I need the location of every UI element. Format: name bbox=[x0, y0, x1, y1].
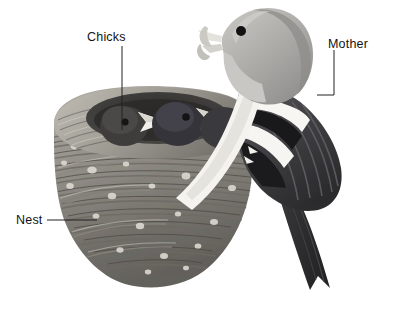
chick-middle-eye bbox=[182, 113, 190, 121]
label-nest: Nest bbox=[16, 214, 43, 227]
bird-eye bbox=[236, 26, 246, 36]
bird-beak bbox=[197, 26, 223, 60]
label-mother: Mother bbox=[328, 38, 368, 51]
leader-line-mother bbox=[317, 50, 334, 95]
label-chicks: Chicks bbox=[87, 31, 126, 44]
